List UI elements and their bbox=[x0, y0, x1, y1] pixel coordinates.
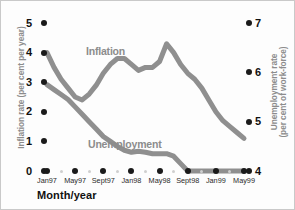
y-axis-left-tick-label: 4 bbox=[26, 47, 32, 58]
y-axis-right-tick-label: 6 bbox=[255, 67, 261, 78]
y-axis-left-tick-label: 0 bbox=[26, 166, 32, 177]
series-label-inflation: Inflation bbox=[86, 45, 125, 57]
x-axis-minor-tick-dot bbox=[200, 170, 203, 173]
y-axis-left-tick-dot bbox=[41, 109, 47, 115]
chart-frame: Inflation rate (per cent per year) Unemp… bbox=[0, 0, 295, 210]
x-axis-minor-tick-dot bbox=[172, 170, 175, 173]
y-axis-right-tick-label: 4 bbox=[255, 166, 261, 177]
x-axis-tick-dot bbox=[241, 168, 247, 174]
y-axis-right-tick-dot bbox=[246, 20, 252, 26]
x-axis-minor-tick-dot bbox=[144, 170, 147, 173]
x-axis-tick-dot bbox=[213, 168, 219, 174]
y-axis-left-tick-label: 3 bbox=[26, 77, 32, 88]
y-axis-right-tick-dot bbox=[246, 119, 252, 125]
inflation-line bbox=[47, 44, 244, 139]
x-axis-minor-tick-dot bbox=[116, 170, 119, 173]
x-axis-tick-dot bbox=[157, 168, 163, 174]
y-axis-left-tick-dot bbox=[41, 50, 47, 56]
y-axis-left-tick-label: 1 bbox=[26, 136, 32, 147]
series-label-unemployment: Unemployment bbox=[88, 138, 161, 150]
x-axis-tick-label: May99 bbox=[224, 177, 264, 185]
y-axis-left-tick-label: 5 bbox=[26, 18, 32, 29]
x-axis-minor-tick-dot bbox=[88, 170, 91, 173]
y-axis-right-tick-label: 7 bbox=[255, 18, 261, 29]
x-axis-tick-dot bbox=[185, 168, 191, 174]
y-axis-left-tick-dot bbox=[41, 20, 47, 26]
x-axis-tick-dot bbox=[44, 168, 50, 174]
y-axis-right-tick-label: 5 bbox=[255, 116, 261, 127]
x-axis-minor-tick-dot bbox=[60, 170, 63, 173]
y-axis-left-tick-label: 2 bbox=[26, 106, 32, 117]
x-axis-title: Month/year bbox=[37, 189, 97, 201]
